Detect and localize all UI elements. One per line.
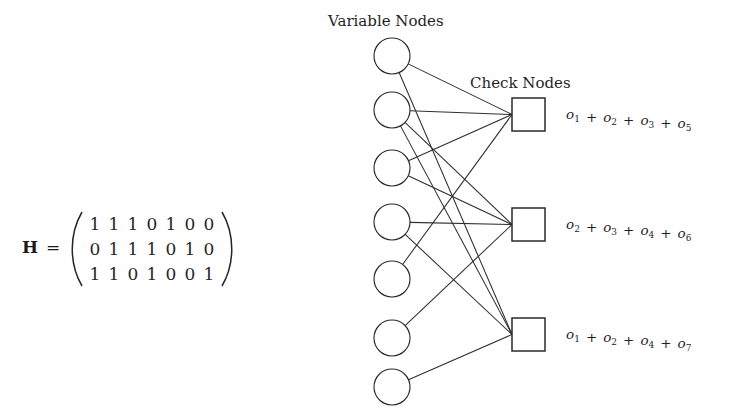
matrix-cell: 1: [90, 264, 101, 284]
variable-node-circle: [374, 320, 410, 356]
equation-term-subscript: 7: [686, 343, 692, 353]
matrix-cell: 1: [147, 239, 158, 259]
variable-node-o3: [374, 150, 410, 186]
equation-plus: +: [586, 109, 597, 125]
equation-term-var: o: [678, 115, 686, 131]
equation-plus: +: [660, 225, 671, 241]
equation-term-subscript: 1: [574, 114, 580, 124]
check-node-square-c3: [512, 318, 545, 351]
equation-term-subscript: 6: [686, 233, 692, 243]
matrix-cell: 0: [185, 214, 196, 234]
equation-term-subscript: 1: [574, 334, 580, 344]
equation-term-subscript: 2: [611, 117, 617, 127]
variable-node-o4: [374, 204, 410, 240]
matrix-cell: 1: [128, 214, 139, 234]
matrix-cell: 0: [166, 239, 177, 259]
matrix-cell: 1: [128, 239, 139, 259]
equation-term-var: o: [603, 329, 611, 345]
matrix-cell: 1: [204, 264, 215, 284]
equation-term-subscript: 5: [686, 123, 692, 133]
matrix-cell: 1: [109, 264, 120, 284]
equation-plus: +: [660, 115, 671, 131]
matrix-cell: 0: [90, 239, 101, 259]
variable-node-circle: [374, 38, 410, 74]
matrix-cell: 0: [185, 264, 196, 284]
equation-term-subscript: 3: [611, 227, 617, 237]
matrix-equals-sign: =: [46, 237, 60, 257]
equation-plus: +: [586, 219, 597, 235]
matrix-cell: 0: [166, 264, 177, 284]
variable-node-o6: [374, 320, 410, 356]
equation-plus: +: [623, 222, 634, 238]
equation-term-var: o: [603, 219, 611, 235]
variable-nodes-label: Variable Nodes: [327, 12, 444, 30]
matrix-cell: 1: [185, 239, 196, 259]
equation-term-var: o: [566, 106, 574, 122]
matrix-cell: 0: [204, 214, 215, 234]
variable-node-o7: [374, 369, 410, 405]
check-node-square-c1: [512, 98, 545, 131]
equation-term-var: o: [678, 335, 686, 351]
variable-node-circle: [374, 261, 410, 297]
matrix-cell: 0: [128, 264, 139, 284]
matrix-cell: 1: [109, 239, 120, 259]
equation-term-var: o: [640, 112, 648, 128]
equation-term-subscript: 4: [649, 230, 655, 240]
variable-node-circle: [374, 369, 410, 405]
variable-node-circle: [374, 92, 410, 128]
equation-term-subscript: 2: [574, 224, 580, 234]
equation-plus: +: [623, 332, 634, 348]
variable-node-circle: [374, 204, 410, 240]
check-node-square-c2: [512, 208, 545, 241]
equation-term-var: o: [566, 326, 574, 342]
equation-term-var: o: [640, 222, 648, 238]
matrix-cell: 1: [109, 214, 120, 234]
matrix-cell: 1: [90, 214, 101, 234]
equation-plus: +: [623, 112, 634, 128]
equation-term-var: o: [603, 109, 611, 125]
equation-term-subscript: 3: [649, 120, 655, 130]
equation-term-var: o: [640, 332, 648, 348]
matrix-cell: 1: [166, 214, 177, 234]
equation-plus: +: [586, 329, 597, 345]
variable-node-o1: [374, 38, 410, 74]
equation-term-subscript: 2: [611, 337, 617, 347]
variable-node-o5: [374, 261, 410, 297]
matrix-cell: 0: [204, 239, 215, 259]
equation-term-var: o: [566, 216, 574, 232]
variable-node-circle: [374, 150, 410, 186]
matrix-name: H: [22, 237, 38, 257]
equation-term-var: o: [678, 225, 686, 241]
check-nodes-label: Check Nodes: [470, 74, 571, 92]
matrix-cell: 0: [147, 214, 158, 234]
matrix-cell: 1: [147, 264, 158, 284]
tanner-graph-figure: H=111010001110101101001 o1+o2+o3+o5o2+o3…: [0, 0, 735, 412]
equation-plus: +: [660, 335, 671, 351]
figure-background: [0, 0, 735, 412]
equation-term-subscript: 4: [649, 340, 655, 350]
variable-node-o2: [374, 92, 410, 128]
